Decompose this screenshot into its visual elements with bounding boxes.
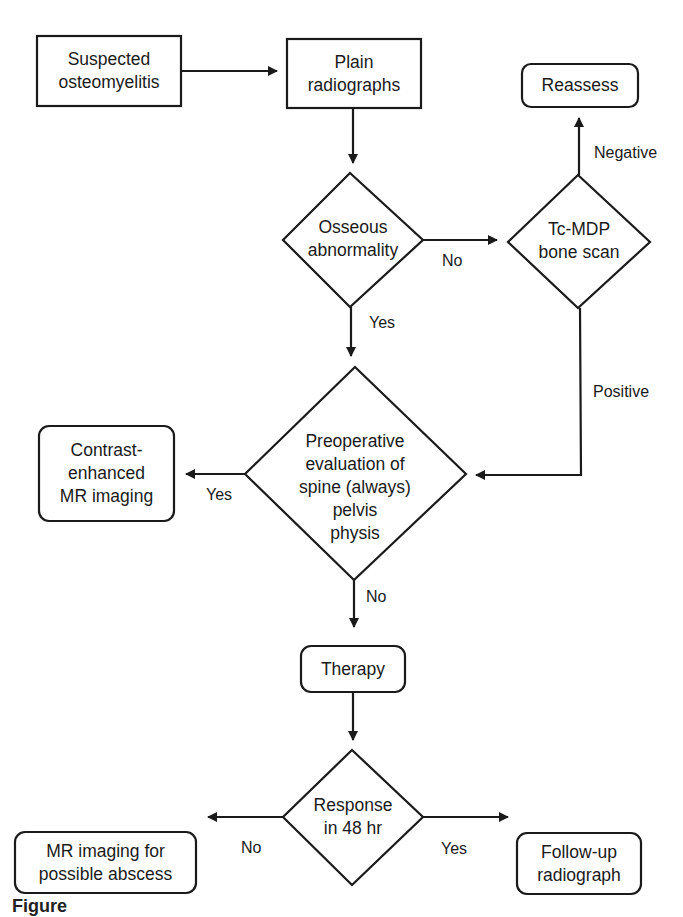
node-reassess-line-1: Reassess (542, 74, 619, 97)
node-preop-line-4: pelvis (333, 499, 378, 522)
figure-caption: Figure (12, 896, 67, 917)
edge-label-tcmdp-positive: Positive (593, 383, 649, 401)
node-suspected-line-1: Suspected (68, 48, 151, 71)
node-plain-line-1: Plain (335, 51, 374, 74)
edge-label-osseous-yes: Yes (369, 314, 395, 332)
node-tcmdp-line-2: bone scan (539, 241, 620, 264)
edge-label-response-no: No (241, 839, 261, 857)
node-preop-line-5: physis (330, 522, 380, 545)
node-reassess: Reassess (522, 64, 638, 107)
node-contrast-line-1: Contrast- (71, 439, 143, 462)
node-contrast-line-3: MR imaging (60, 485, 153, 508)
edge-label-preop-no: No (366, 588, 386, 606)
node-therapy-line-1: Therapy (321, 658, 385, 681)
edge-label-tcmdp-negative: Negative (594, 144, 657, 162)
node-suspected-line-2: osteomyelitis (58, 71, 159, 94)
edge-label-preop-yes: Yes (206, 486, 232, 504)
node-therapy: Therapy (301, 646, 405, 692)
node-mr-abscess-line-2: possible abscess (39, 863, 172, 886)
node-mr-abscess-line-1: MR imaging for (46, 840, 165, 863)
edge-tcmdp-preop (476, 308, 581, 475)
node-response: Response in 48 hr (283, 785, 423, 849)
node-response-line-2: in 48 hr (324, 817, 382, 840)
node-plain-line-2: radiographs (308, 74, 400, 97)
node-followup-line-1: Follow-up (541, 841, 617, 864)
edge-label-osseous-no: No (442, 252, 462, 270)
node-contrast-line-2: enhanced (68, 462, 145, 485)
node-mr-abscess: MR imaging for possible abscess (15, 832, 196, 893)
node-followup: Follow-up radiograph (517, 833, 641, 894)
node-contrast: Contrast- enhanced MR imaging (39, 426, 174, 521)
edge-label-response-yes: Yes (441, 840, 467, 858)
node-followup-line-2: radiograph (537, 864, 621, 887)
node-tcmdp-line-1: Tc-MDP (548, 218, 610, 241)
node-preop-line-1: Preoperative (305, 430, 404, 453)
node-osseous: Osseous abnormality (283, 207, 423, 271)
node-preop: Preoperative evaluation of spine (always… (265, 427, 445, 547)
node-preop-line-2: evaluation of (305, 453, 404, 476)
node-preop-line-3: spine (always) (299, 476, 411, 499)
node-suspected: Suspected osteomyelitis (37, 36, 181, 106)
node-tcmdp: Tc-MDP bone scan (508, 209, 650, 273)
node-osseous-line-1: Osseous (318, 216, 387, 239)
node-osseous-line-2: abnormality (308, 239, 398, 262)
node-response-line-1: Response (314, 794, 393, 817)
node-plain: Plain radiographs (287, 39, 421, 108)
